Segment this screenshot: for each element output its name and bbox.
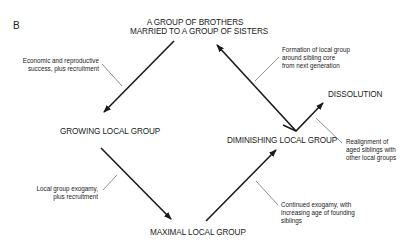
node-top-line2: MARRIED TO A GROUP OF SISTERS xyxy=(130,27,260,36)
node-maximal: MAXIMAL LOCAL GROUP xyxy=(150,228,246,237)
arrow-maximal-to-diminishing xyxy=(206,150,276,221)
node-brothers-sisters: A GROUP OF BROTHERS MARRIED TO A GROUP O… xyxy=(130,18,260,36)
panel-label: B xyxy=(13,20,20,31)
pointer-exogamy xyxy=(103,175,117,190)
node-top-line1: A GROUP OF BROTHERS xyxy=(130,18,260,27)
pointer-economic xyxy=(102,64,122,86)
annotation-continued: Continued exogamy, with increasing age o… xyxy=(281,201,355,225)
annotation-exogamy: Local group exogamy, plus recruitment xyxy=(30,185,98,201)
arrow-top-to-growing xyxy=(104,41,174,112)
arrow-growing-to-maximal xyxy=(101,148,171,219)
annotation-realignment: Realignment of aged siblings with other … xyxy=(346,138,396,162)
node-diminishing: DIMINISHING LOCAL GROUP xyxy=(227,136,337,145)
annotation-formation: Formation of local group around sibling … xyxy=(282,46,350,70)
pointer-continued xyxy=(256,181,278,205)
node-growing: GROWING LOCAL GROUP xyxy=(60,127,160,136)
node-dissolution: DISSOLUTION xyxy=(328,90,382,99)
arrow-diminishing-to-dissolution xyxy=(283,103,323,131)
pointer-formation xyxy=(255,57,279,81)
annotation-economic: Economic and reproductive success, plus … xyxy=(22,57,99,73)
